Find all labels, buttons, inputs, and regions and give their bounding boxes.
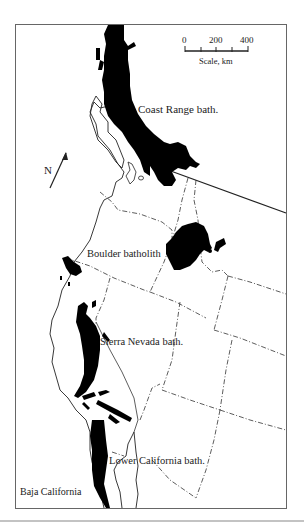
scale-caption: Scale, km <box>199 56 233 66</box>
mainland-mexico-coast <box>134 432 138 508</box>
baja-east-coast <box>114 432 134 508</box>
north-arrow-icon: N <box>44 152 68 188</box>
puget-sound <box>126 162 136 184</box>
map-frame <box>16 25 287 509</box>
scale-bar: 0 200 400 Scale, km <box>182 35 254 66</box>
scale-tick-400: 400 <box>240 35 254 45</box>
small-island <box>139 176 144 180</box>
boulder-batholith <box>166 222 212 270</box>
label-boulder: Boulder batholith <box>87 248 162 259</box>
label-sierra-nevada: Sierra Nevada bath. <box>100 336 183 347</box>
lower-california-batholith <box>90 420 110 508</box>
north-arrow-label: N <box>44 164 52 176</box>
label-lower-california: Lower California bath. <box>109 455 205 466</box>
sierra-nevada-batholith <box>74 302 100 398</box>
scale-tick-0: 0 <box>182 35 187 45</box>
batholith-map: N 0 200 400 Scale, km Coast Range bath. … <box>0 0 304 532</box>
label-baja: Baja California <box>20 486 82 497</box>
batholiths <box>60 25 226 508</box>
scale-tick-200: 200 <box>209 35 223 45</box>
label-coast-range: Coast Range bath. <box>138 103 219 115</box>
canada-us-border <box>168 170 286 213</box>
